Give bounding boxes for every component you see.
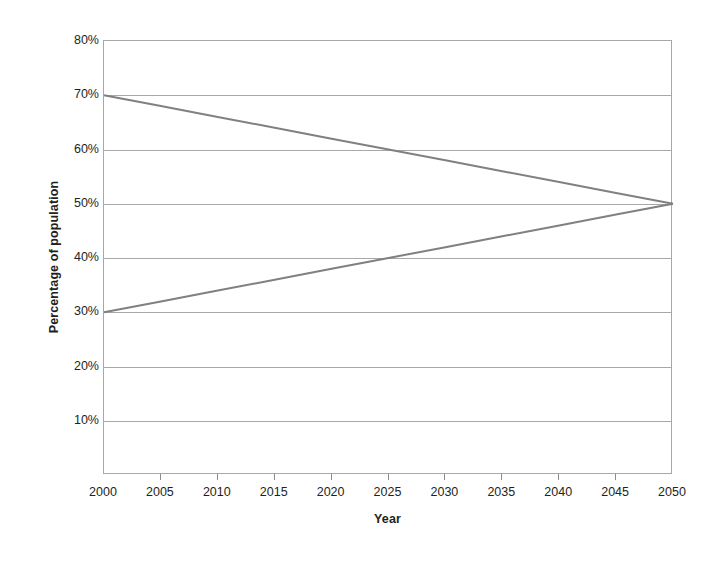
x-tick-mark bbox=[331, 474, 332, 480]
x-tick-label: 2030 bbox=[414, 485, 474, 499]
y-tick-label: 20% bbox=[55, 360, 99, 372]
y-axis-tick-labels: 10%20%30%40%50%60%70%80% bbox=[44, 40, 99, 474]
x-tick-label: 2025 bbox=[358, 485, 418, 499]
series-layer bbox=[104, 41, 673, 475]
x-tick-mark bbox=[444, 474, 445, 480]
x-tick-mark bbox=[615, 474, 616, 480]
x-tick-mark bbox=[388, 474, 389, 480]
plot-area bbox=[103, 40, 672, 474]
x-tick-label: 2040 bbox=[528, 485, 588, 499]
x-axis-title: Year bbox=[103, 512, 672, 526]
y-tick-label: 80% bbox=[55, 34, 99, 46]
x-tick-label: 2020 bbox=[301, 485, 361, 499]
x-tick-label: 2010 bbox=[187, 485, 247, 499]
x-tick-label: 2050 bbox=[642, 485, 702, 499]
y-tick-label: 50% bbox=[55, 197, 99, 209]
x-tick-label: 2035 bbox=[471, 485, 531, 499]
x-tick-label: 2000 bbox=[73, 485, 133, 499]
x-axis-ticks: 2000200520102015202020252030203520402045… bbox=[103, 474, 672, 514]
y-tick-label: 30% bbox=[55, 305, 99, 317]
x-tick-mark bbox=[501, 474, 502, 480]
x-tick-mark bbox=[558, 474, 559, 480]
x-tick-mark bbox=[217, 474, 218, 480]
series-line-declining-share bbox=[104, 95, 673, 204]
x-tick-mark bbox=[274, 474, 275, 480]
y-tick-label: 70% bbox=[55, 88, 99, 100]
line-chart: Percentage of population 10%20%30%40%50%… bbox=[0, 0, 719, 571]
x-tick-mark bbox=[160, 474, 161, 480]
y-tick-label: 60% bbox=[55, 143, 99, 155]
y-tick-label: 40% bbox=[55, 251, 99, 263]
series-line-rising-share bbox=[104, 204, 673, 313]
x-tick-label: 2045 bbox=[585, 485, 645, 499]
y-tick-label: 10% bbox=[55, 414, 99, 426]
x-tick-label: 2005 bbox=[130, 485, 190, 499]
x-tick-label: 2015 bbox=[244, 485, 304, 499]
